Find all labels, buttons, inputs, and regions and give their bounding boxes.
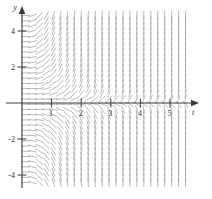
slope-mark — [36, 12, 42, 18]
slope-mark — [36, 159, 43, 164]
x-tick-label: 1 — [49, 109, 53, 118]
x-tick-label: 4 — [138, 109, 142, 118]
y-axis-arrowhead — [19, 6, 26, 14]
slope-mark — [35, 129, 44, 132]
slope-mark — [114, 105, 118, 113]
slope-mark — [43, 59, 50, 65]
slope-mark — [43, 76, 51, 80]
x-tick-label: 2 — [79, 109, 83, 118]
slope-mark — [92, 96, 99, 102]
slope-mark — [50, 117, 58, 122]
slope-mark — [100, 106, 105, 114]
slope-mark — [35, 71, 43, 74]
slope-mark — [115, 90, 118, 99]
slope-mark — [183, 101, 188, 108]
slope-mark — [36, 174, 43, 180]
slope-mark — [36, 179, 43, 185]
y-axis-label: y — [12, 3, 17, 12]
slope-mark — [101, 110, 104, 119]
slope-mark — [121, 105, 124, 113]
slope-mark — [79, 85, 83, 93]
slope-mark — [84, 97, 91, 102]
x-tick-label: 5 — [168, 109, 172, 118]
slope-mark — [135, 95, 139, 103]
slope-mark — [35, 82, 44, 84]
slope-mark — [149, 95, 152, 103]
slope-mark — [35, 134, 43, 137]
y-tick-label: -2 — [8, 135, 15, 144]
y-tick-label: -4 — [8, 171, 15, 180]
slope-mark — [43, 133, 50, 138]
slope-mark — [36, 154, 44, 159]
slope-mark — [43, 143, 49, 149]
slope-mark — [78, 90, 84, 97]
slope-mark — [57, 86, 64, 92]
slope-mark — [36, 44, 44, 49]
x-axis-label: t — [192, 108, 195, 117]
slope-mark — [36, 23, 43, 29]
slope-mark — [35, 61, 43, 65]
slope-mark — [43, 65, 50, 71]
slope-mark — [176, 101, 182, 108]
slope-mark — [71, 111, 77, 118]
x-axis-arrowhead — [191, 100, 199, 107]
slope-mark — [72, 116, 76, 124]
slope-mark — [147, 101, 154, 107]
slope-mark — [42, 82, 50, 86]
slope-mark — [35, 77, 44, 80]
slope-mark — [142, 95, 146, 103]
slope-mark — [35, 144, 43, 148]
y-tick-label: 4 — [11, 27, 15, 36]
slope-mark — [156, 95, 159, 103]
slope-mark — [85, 106, 91, 113]
slope-mark — [143, 105, 145, 114]
slope-mark — [161, 101, 167, 107]
slope-mark — [36, 149, 44, 153]
slope-mark — [36, 34, 43, 40]
slope-mark — [121, 95, 126, 103]
slope-mark — [43, 138, 50, 144]
slope-mark — [36, 164, 43, 169]
slope-field-marks — [21, 11, 188, 187]
slope-mark — [42, 87, 51, 90]
slope-mark — [72, 85, 77, 93]
slope-mark — [36, 50, 44, 55]
slope-mark — [93, 90, 97, 98]
slope-mark — [35, 124, 44, 126]
slope-mark — [113, 95, 118, 102]
slope-mark — [50, 81, 57, 86]
slope-mark — [43, 128, 51, 133]
slope-mark — [57, 112, 65, 117]
slope-mark — [43, 70, 50, 75]
slope-mark — [86, 90, 91, 98]
slope-mark — [42, 118, 50, 121]
x-tick-label: 3 — [108, 109, 112, 118]
slope-mark — [93, 111, 96, 119]
slope-mark — [36, 18, 42, 24]
slope-mark — [42, 123, 50, 127]
slope-mark — [35, 66, 43, 69]
slope-mark — [140, 102, 147, 107]
slope-mark — [36, 55, 44, 59]
slope-mark — [92, 106, 97, 113]
slope-mark — [169, 101, 175, 108]
slope-mark — [154, 101, 161, 107]
slope-mark — [50, 122, 57, 128]
slope-mark — [99, 96, 105, 102]
slope-mark — [86, 111, 90, 119]
slope-mark — [35, 139, 43, 143]
slope-mark — [107, 90, 110, 98]
slope-mark — [36, 169, 43, 175]
slope-mark — [122, 89, 124, 98]
slope-mark — [36, 28, 43, 34]
slope-field-figure: 1234542-2-4 t y — [0, 0, 212, 199]
slope-mark — [65, 80, 70, 88]
slope-mark — [36, 39, 43, 44]
slope-mark — [128, 105, 131, 114]
slope-mark — [64, 91, 71, 96]
slope-mark — [129, 89, 131, 98]
y-tick-label: 2 — [11, 63, 15, 72]
slope-mark — [128, 95, 132, 103]
slope-mark — [100, 90, 104, 98]
